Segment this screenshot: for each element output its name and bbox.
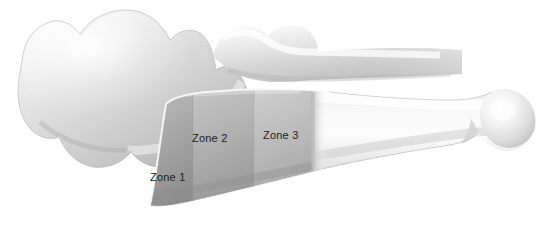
zone-3-region — [254, 86, 315, 215]
metacarpal-head-highlight — [490, 99, 516, 121]
anatomical-figure: Zone 1 Zone 2 Zone 3 — [0, 0, 551, 235]
zone-3-distal-fade — [311, 84, 327, 216]
proximal-bone-fragment — [214, 20, 551, 92]
zone-2-region — [193, 90, 254, 215]
zone-1-label: Zone 1 — [150, 172, 185, 183]
zone-3-label: Zone 3 — [263, 130, 298, 141]
bone-illustration-canvas — [0, 0, 551, 235]
proximal-fragment-fade — [370, 20, 551, 92]
zone-2-label: Zone 2 — [192, 133, 227, 144]
zone-overlay-group — [140, 84, 327, 216]
